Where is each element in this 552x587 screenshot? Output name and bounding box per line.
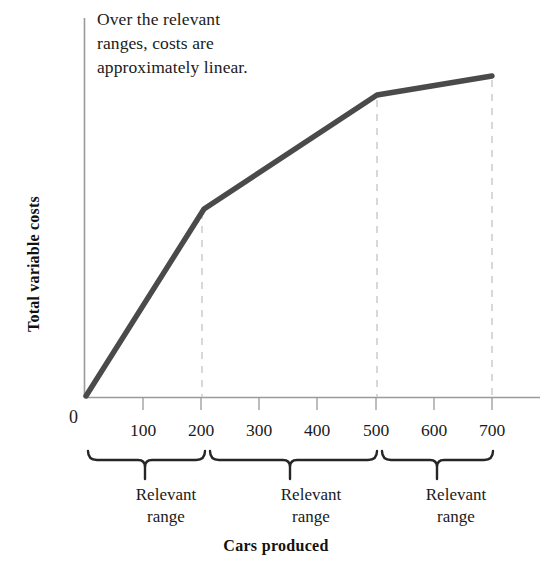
brace-range-1: [88, 451, 205, 479]
relevant-range-label-3: Relevant range: [396, 484, 516, 529]
x-tick-label-300: 300: [229, 420, 289, 441]
x-tick-label-100: 100: [113, 420, 173, 441]
x-tick-label-400: 400: [287, 420, 347, 441]
brace-range-3: [382, 451, 493, 479]
y-axis-title: Total variable costs: [25, 164, 43, 364]
guide-lines: [202, 80, 492, 397]
x-tick-label-700: 700: [462, 420, 522, 441]
x-tick-label-500: 500: [346, 420, 406, 441]
relevant-range-label-1: Relevant range: [106, 484, 226, 529]
chart-figure: Over the relevant ranges, costs are appr…: [0, 0, 552, 587]
chart-annotation: Over the relevant ranges, costs are appr…: [97, 8, 302, 79]
brace-range-2: [210, 451, 377, 479]
x-axis-title: Cars produced: [0, 537, 552, 555]
variable-cost-line: [86, 76, 492, 396]
x-tick-label-200: 200: [171, 420, 231, 441]
x-tick-label-600: 600: [404, 420, 464, 441]
relevant-range-braces: [88, 451, 493, 479]
origin-label: 0: [52, 407, 78, 428]
relevant-range-label-2: Relevant range: [251, 484, 371, 529]
x-axis-ticks: [143, 398, 492, 410]
